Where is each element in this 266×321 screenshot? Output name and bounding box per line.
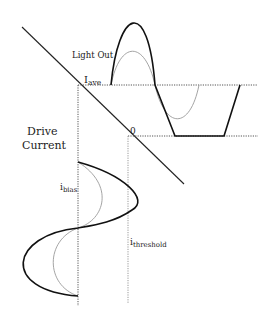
light-output-large-waveform [111,23,240,136]
laser-modulation-diagram: Light Out Iave 0 Drive Current ibias ith… [0,0,266,321]
i-bias-label: ibias [60,182,78,194]
i-threshold-label: ithreshold [130,237,167,249]
zero-label: 0 [130,126,136,136]
drive-current-label: Drive Current [22,125,67,152]
drive-current-large-waveform [23,162,138,296]
i-ave-label: Iave [84,74,102,87]
light-out-label: Light Out [72,50,114,60]
